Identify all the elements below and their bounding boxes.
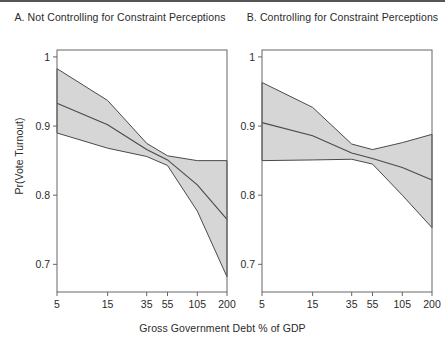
panel-b-plot: 0.70.80.915153555105200 <box>240 0 445 318</box>
x-axis-title: Gross Government Debt % of GDP <box>0 322 445 334</box>
y-tick-label: 0.8 <box>240 189 255 201</box>
y-tick-label: 1 <box>249 51 255 63</box>
x-tick-label: 105 <box>394 298 412 310</box>
y-tick-label: 0.8 <box>35 189 50 201</box>
x-tick-label: 15 <box>307 298 319 310</box>
y-tick-label: 0.9 <box>240 120 255 132</box>
confidence-band <box>262 83 432 228</box>
figure-container: A. Not Controlling for Constraint Percep… <box>0 0 445 347</box>
confidence-band <box>57 69 227 277</box>
x-tick-label: 200 <box>423 298 441 310</box>
panel-a: A. Not Controlling for Constraint Percep… <box>0 0 240 318</box>
x-tick-label: 105 <box>189 298 207 310</box>
y-tick-label: 0.7 <box>35 258 50 270</box>
x-tick-label: 35 <box>346 298 358 310</box>
x-tick-label: 200 <box>218 298 236 310</box>
y-axis-title: Pr(Vote Turnout) <box>13 101 25 211</box>
y-tick-label: 0.9 <box>35 120 50 132</box>
x-tick-label: 35 <box>141 298 153 310</box>
y-tick-label: 0.7 <box>240 258 255 270</box>
x-tick-label: 55 <box>367 298 379 310</box>
x-tick-label: 15 <box>102 298 114 310</box>
y-tick-label: 1 <box>44 51 50 63</box>
panel-a-plot: 0.70.80.915153555105200 <box>0 0 240 318</box>
x-tick-label: 5 <box>54 298 60 310</box>
x-tick-label: 55 <box>162 298 174 310</box>
panel-b: B. Controlling for Constraint Perception… <box>240 0 445 318</box>
x-tick-label: 5 <box>259 298 265 310</box>
